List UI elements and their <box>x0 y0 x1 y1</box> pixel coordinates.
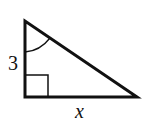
horizontal-leg-label: x <box>74 100 84 122</box>
right-angle-mark <box>25 75 48 97</box>
triangle-diagram: 3 x <box>0 0 144 129</box>
vertical-leg-label: 3 <box>8 52 18 74</box>
angle-arc <box>25 38 50 52</box>
triangle <box>25 21 137 97</box>
